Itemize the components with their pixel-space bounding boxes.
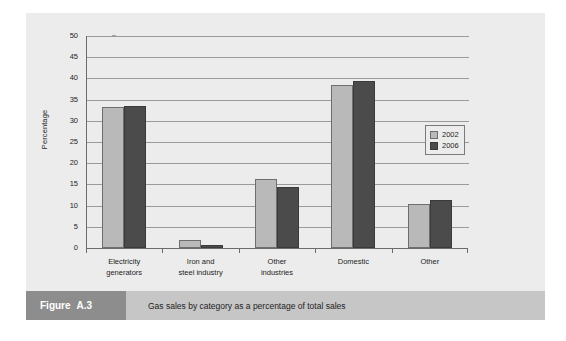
x-axis-tick bbox=[162, 248, 163, 253]
bar-2002 bbox=[179, 240, 201, 248]
page-root: Percentage 05101520253035404550 Electric… bbox=[0, 0, 566, 341]
y-tick-label: 5 bbox=[56, 223, 78, 231]
x-axis-tick bbox=[392, 248, 393, 253]
legend-label-2002: 2002 bbox=[442, 131, 459, 139]
x-axis-category-labels: ElectricitygeneratorsIron andsteel indus… bbox=[86, 257, 468, 287]
y-tick-label: 10 bbox=[56, 202, 78, 210]
x-axis-tick bbox=[86, 248, 87, 253]
legend-swatch-2006-icon bbox=[430, 142, 438, 150]
chart-legend: 2002 2006 bbox=[425, 125, 465, 155]
y-tick-label: 40 bbox=[56, 75, 78, 83]
y-tick-label: 25 bbox=[56, 138, 78, 146]
y-tick-label: 45 bbox=[56, 53, 78, 61]
figure-label: Figure bbox=[40, 300, 71, 311]
bar-2006 bbox=[430, 200, 452, 248]
y-tick-label: 50 bbox=[56, 32, 78, 40]
x-axis-tick bbox=[467, 248, 468, 253]
figure-caption-text: Gas sales by category as a percentage of… bbox=[126, 291, 545, 320]
y-tick-label: 0 bbox=[56, 244, 78, 252]
x-axis-label: Domestic bbox=[315, 257, 391, 268]
y-tick-label: 15 bbox=[56, 181, 78, 189]
legend-item-2006: 2006 bbox=[430, 140, 459, 151]
bars-layer bbox=[86, 36, 468, 248]
y-axis-title: Percentage bbox=[40, 95, 49, 165]
bar-2002 bbox=[255, 179, 277, 248]
y-axis-tick-labels: 05101520253035404550 bbox=[56, 36, 78, 248]
x-axis-separators bbox=[86, 248, 468, 254]
figure-number: A.3 bbox=[77, 300, 93, 311]
bar-2002 bbox=[331, 85, 353, 248]
bar-2006 bbox=[124, 106, 146, 248]
bar-2002 bbox=[102, 107, 124, 248]
bar-group bbox=[255, 36, 299, 248]
bar-2006 bbox=[353, 81, 375, 248]
legend-swatch-2002-icon bbox=[430, 131, 438, 139]
x-axis-label: Otherindustries bbox=[239, 257, 315, 278]
bar-2006 bbox=[277, 187, 299, 248]
x-axis-tick bbox=[315, 248, 316, 253]
x-axis-label: Electricitygenerators bbox=[86, 257, 162, 278]
legend-label-2006: 2006 bbox=[442, 142, 459, 150]
figure-caption-bar: Figure A.3 Gas sales by category as a pe… bbox=[26, 291, 545, 320]
figure-panel: Percentage 05101520253035404550 Electric… bbox=[26, 13, 545, 320]
x-axis-tick bbox=[239, 248, 240, 253]
legend-item-2002: 2002 bbox=[430, 129, 459, 140]
y-tick-label: 35 bbox=[56, 96, 78, 104]
y-tick-label: 30 bbox=[56, 117, 78, 125]
bar-group bbox=[102, 36, 146, 248]
chart-region: Percentage 05101520253035404550 Electric… bbox=[26, 13, 545, 285]
figure-number-block: Figure A.3 bbox=[26, 291, 126, 320]
bar-2002 bbox=[408, 204, 430, 248]
bar-group bbox=[331, 36, 375, 248]
bar-group bbox=[179, 36, 223, 248]
y-tick-label: 20 bbox=[56, 159, 78, 167]
x-axis-label: Other bbox=[392, 257, 468, 268]
x-axis-label: Iron andsteel industry bbox=[162, 257, 238, 278]
